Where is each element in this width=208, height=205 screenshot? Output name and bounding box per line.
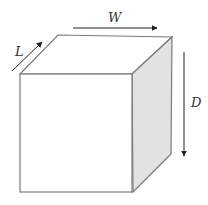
box-front-face <box>20 74 132 192</box>
width-label: W <box>108 10 123 25</box>
length-label: L <box>14 44 24 59</box>
depth-label: D <box>190 95 202 110</box>
box-diagram: W L D <box>0 0 208 205</box>
